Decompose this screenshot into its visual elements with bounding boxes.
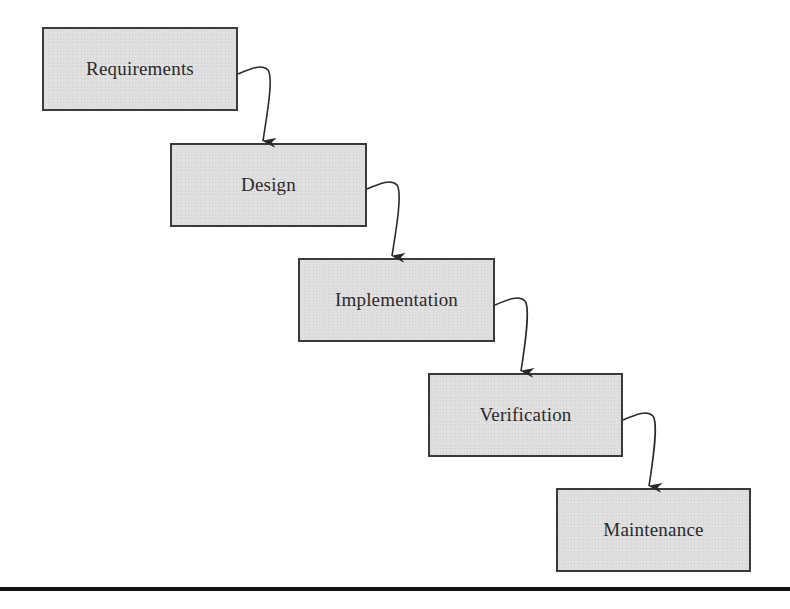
arrow-icon [238, 67, 270, 141]
phase-label-requirements: Requirements [86, 58, 194, 80]
phase-label-verification: Verification [479, 404, 571, 426]
phase-box-design: Design [170, 143, 367, 227]
waterfall-diagram: Requirements Design Implementation Verif… [0, 0, 790, 609]
bottom-rule-divider [0, 587, 790, 591]
arrow-icon [495, 298, 527, 371]
phase-label-design: Design [241, 174, 296, 196]
phase-box-maintenance: Maintenance [556, 488, 751, 572]
phase-box-verification: Verification [428, 373, 623, 457]
arrow-verification-to-maintenance [623, 413, 655, 486]
arrow-design-to-implementation [367, 182, 399, 256]
arrow-icon [623, 413, 655, 486]
arrow-implementation-to-verification [495, 298, 527, 371]
phase-box-implementation: Implementation [298, 258, 495, 342]
phase-label-maintenance: Maintenance [603, 519, 703, 541]
arrow-requirements-to-design [238, 67, 270, 141]
arrow-icon [367, 182, 399, 256]
phase-label-implementation: Implementation [335, 289, 458, 311]
phase-box-requirements: Requirements [42, 27, 238, 111]
